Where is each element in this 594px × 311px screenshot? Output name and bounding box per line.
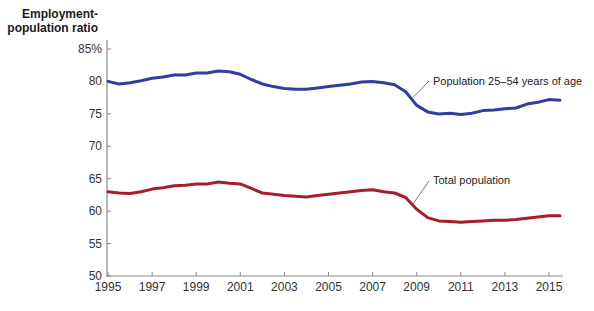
x-tick-label: 1997	[139, 280, 166, 294]
x-tick-label: 2001	[227, 280, 254, 294]
y-tick-label: 75	[89, 107, 103, 121]
x-tick-label: 2009	[403, 280, 430, 294]
y-tick-label: 65	[89, 172, 103, 186]
x-axis: 1995199719992001200320052007200920112013…	[95, 272, 563, 294]
x-tick-label: 1995	[95, 280, 122, 294]
line-chart: 5055606570758085% 1995199719992001200320…	[0, 0, 594, 311]
annotations: Population 25–54 years of ageTotal popul…	[413, 75, 582, 203]
y-tick-label: 60	[89, 204, 103, 218]
x-tick-label: 2011	[448, 280, 474, 294]
series-lines	[108, 71, 560, 222]
x-tick-label: 2003	[271, 280, 298, 294]
x-tick-label: 1999	[183, 280, 210, 294]
annotation-population-25-54: Population 25–54 years of age	[433, 75, 582, 87]
x-tick-label: 2015	[536, 280, 563, 294]
series-line-total	[108, 182, 560, 222]
annotation-total-population: Total population	[433, 174, 510, 186]
y-tick-label: 85%	[78, 42, 102, 56]
y-axis: 5055606570758085%	[78, 40, 111, 283]
y-tick-label: 55	[89, 237, 103, 251]
y-tick-label: 70	[89, 139, 103, 153]
x-tick-label: 2007	[359, 280, 386, 294]
y-tick-label: 80	[89, 74, 103, 88]
x-tick-label: 2013	[492, 280, 519, 294]
x-tick-label: 2005	[315, 280, 342, 294]
